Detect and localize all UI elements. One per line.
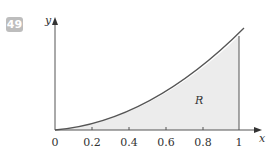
x-tick-0: 0 [52,136,59,149]
area-diagram: 0 0.2 0.4 0.6 0.8 1 x y R [0,0,270,159]
y-axis-label: y [44,14,52,27]
region-label: R [194,94,203,107]
x-tick-3: 0.6 [157,136,175,149]
y-axis-arrow-icon [52,17,58,25]
x-tick-5: 1 [236,136,243,149]
x-tick-1: 0.2 [83,136,101,149]
x-tick-2: 0.4 [120,136,138,149]
x-axis-label: x [259,132,266,145]
shaded-region [55,36,239,130]
x-tick-4: 0.8 [194,136,212,149]
